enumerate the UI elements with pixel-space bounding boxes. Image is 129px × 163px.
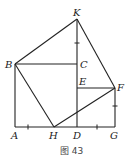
label-d: D [72,130,81,141]
label-e: E [78,76,87,87]
label-h: H [48,130,58,141]
label-g: G [110,130,118,141]
figure-caption: 图 43 [60,146,83,156]
geometry-figure: K B C E F A H D G 图 43 [0,0,129,163]
label-b: B [4,59,12,70]
label-c: C [80,59,88,70]
label-f: F [116,82,125,93]
label-k: K [72,7,81,18]
segment-hb [15,64,54,127]
label-a: A [10,130,18,141]
segment-bk [15,19,77,64]
segment-fh [54,88,115,127]
